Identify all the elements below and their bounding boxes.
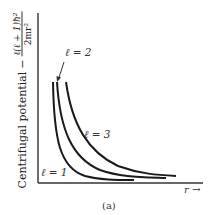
fraction-numerator: ℓ(ℓ + 1)ħ² <box>12 12 23 57</box>
label-l1: ℓ = 1 <box>41 166 68 178</box>
fraction-denominator: 2mr² <box>23 23 33 45</box>
x-axis-label: r → <box>184 184 200 195</box>
y-axis-label-fraction: ℓ(ℓ + 1)ħ² 2mr² <box>12 12 33 57</box>
y-axis-label-text: Centrifugal potential <box>16 72 29 189</box>
label-l3: ℓ = 3 <box>84 128 111 140</box>
arrow-l2 <box>59 62 65 79</box>
figure-caption: (a) <box>102 200 116 211</box>
y-axis-label-minus: − <box>16 60 29 69</box>
y-axis-label: Centrifugal potential − ℓ(ℓ + 1)ħ² 2mr² <box>2 0 42 200</box>
curve-l3 <box>66 82 176 176</box>
centrifugal-potential-figure: Centrifugal potential − ℓ(ℓ + 1)ħ² 2mr² … <box>0 0 216 215</box>
arrow-head-icon <box>57 76 62 82</box>
label-l2: ℓ = 2 <box>65 46 92 58</box>
